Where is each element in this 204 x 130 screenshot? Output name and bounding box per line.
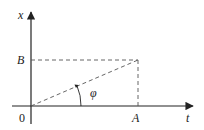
dashed-diagonal [31,60,138,106]
phase-diagram: x t 0 B A φ [0,0,204,130]
point-b-label: B [17,53,25,67]
point-a-label: A [131,111,140,125]
t-axis-label: t [186,111,190,125]
origin-label: 0 [19,111,25,125]
x-axis-label: x [17,8,24,22]
angle-arc [77,86,81,106]
angle-phi-label: φ [90,86,97,100]
